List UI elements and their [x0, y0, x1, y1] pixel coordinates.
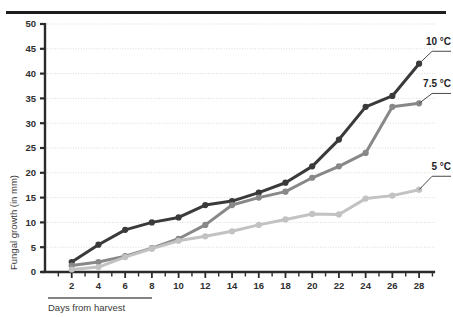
y-axis-title: Fungal growth (in mm) [8, 175, 19, 270]
y-tick-label-50: 50 [25, 18, 36, 29]
x-axis-title: Days from harvest [48, 302, 125, 313]
data-point [69, 266, 75, 272]
x-tick-label-16: 16 [253, 280, 264, 291]
x-tick-label-28: 28 [414, 280, 425, 291]
axis-group [41, 23, 435, 272]
x-tick-group: 246810121416182022242628 [58, 272, 432, 291]
data-point [389, 104, 395, 110]
data-point [309, 175, 315, 181]
y-tick-label-10: 10 [25, 217, 36, 228]
data-point [336, 136, 342, 142]
leader-line-2 [419, 176, 451, 189]
data-point [122, 227, 128, 233]
y-tick-label-35: 35 [25, 93, 36, 104]
data-point [389, 193, 395, 199]
data-point [256, 222, 262, 228]
series-label-1: 7.5 °C [423, 78, 451, 89]
data-point [309, 211, 315, 217]
data-point [229, 202, 235, 208]
y-tick-label-30: 30 [25, 118, 36, 129]
data-point [256, 195, 262, 201]
line-chart-canvas: 05101520253035404550 2468101214161820222… [0, 0, 453, 317]
data-point [95, 264, 101, 270]
data-point [229, 228, 235, 234]
data-point [149, 246, 155, 252]
series-group [69, 61, 423, 273]
x-tick-label-2: 2 [69, 280, 74, 291]
x-tick-label-20: 20 [307, 280, 318, 291]
data-point [202, 233, 208, 239]
data-point [202, 222, 208, 228]
y-tick-label-5: 5 [31, 242, 37, 253]
data-point [149, 219, 155, 225]
data-point [389, 93, 395, 99]
series-label-2: 5 °C [431, 161, 451, 172]
x-tick-label-10: 10 [173, 280, 184, 291]
x-tick-label-22: 22 [334, 280, 345, 291]
data-point [363, 195, 369, 201]
data-point [176, 214, 182, 220]
y-tick-label-15: 15 [25, 192, 36, 203]
y-tick-label-0: 0 [31, 266, 36, 277]
x-tick-label-14: 14 [227, 280, 238, 291]
data-point [282, 180, 288, 186]
chart-figure: 05101520253035404550 2468101214161820222… [0, 0, 453, 317]
series-label-0: 10 °C [426, 36, 451, 47]
data-point [363, 150, 369, 156]
y-tick-label-45: 45 [25, 43, 36, 54]
x-tick-label-26: 26 [387, 280, 398, 291]
data-point [363, 104, 369, 110]
x-tick-label-8: 8 [149, 280, 154, 291]
x-tick-label-18: 18 [280, 280, 291, 291]
data-point [122, 254, 128, 260]
data-point [282, 216, 288, 222]
data-point [309, 163, 315, 169]
x-tick-label-6: 6 [123, 280, 128, 291]
data-point [336, 163, 342, 169]
series-line-1 [72, 103, 419, 265]
y-tick-label-25: 25 [25, 142, 36, 153]
y-tick-label-40: 40 [25, 68, 36, 79]
series-label-group: 10 °C7.5 °C5 °C [423, 36, 451, 172]
data-point [95, 242, 101, 248]
data-point [336, 211, 342, 217]
y-tick-group: 05101520253035404550 [25, 18, 45, 277]
data-point [202, 202, 208, 208]
data-point [282, 189, 288, 195]
x-tick-label-4: 4 [96, 280, 102, 291]
data-point [176, 238, 182, 244]
x-tick-label-24: 24 [360, 280, 371, 291]
x-tick-label-12: 12 [200, 280, 211, 291]
y-tick-label-20: 20 [25, 167, 36, 178]
leader-line-0 [419, 51, 451, 63]
